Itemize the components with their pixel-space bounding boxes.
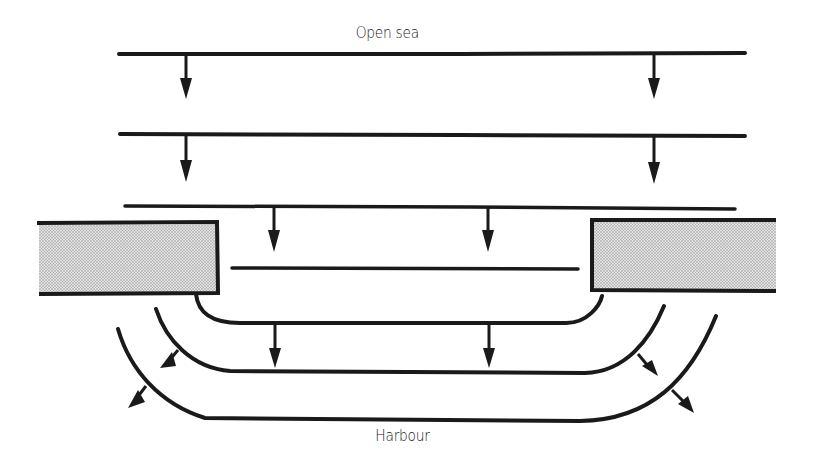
- diagram-canvas: Open sea Harbour: [0, 0, 817, 470]
- arrow-down-icon: [648, 137, 660, 184]
- wavefront-gap: [232, 268, 578, 269]
- wavefront-harbour-1: [196, 294, 602, 323]
- arrow-down-icon: [269, 324, 281, 368]
- arrow-diagonal-icon: [128, 386, 146, 408]
- arrow-down-icon: [482, 208, 494, 252]
- arrow-diagonal-icon: [672, 390, 694, 413]
- breakwater-left: [37, 222, 218, 294]
- wavefront-1: [119, 53, 745, 54]
- arrow-diagonal-icon: [160, 350, 178, 368]
- arrow-down-icon: [180, 55, 192, 99]
- arrow-diagonal-icon: [638, 354, 658, 376]
- arrow-down-icon: [483, 324, 495, 368]
- arrow-down-icon: [268, 207, 280, 252]
- arrow-down-icon: [180, 136, 192, 182]
- arrow-down-icon: [648, 55, 660, 99]
- wavefront-3: [125, 206, 735, 209]
- wavefront-2: [120, 134, 745, 136]
- breakwater-right: [592, 220, 776, 292]
- wavefront-harbour-3: [118, 316, 716, 421]
- wave-diffraction-diagram: [0, 0, 817, 470]
